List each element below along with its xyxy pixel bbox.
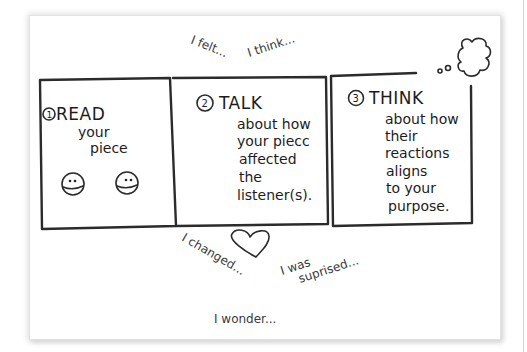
smiley-face-icon <box>62 173 84 195</box>
annotation-i-think: I think... <box>246 31 297 59</box>
step-box-talk: 2 TALK about how your piecc affected the… <box>173 77 328 226</box>
step-number-1: 1 <box>47 110 53 120</box>
step-body-think-line-5: to your <box>386 180 436 196</box>
step-title-read: READ <box>56 104 105 124</box>
step-body-talk-line-5: listener(s). <box>237 187 312 203</box>
step-body-talk-line-4: the <box>239 169 262 185</box>
heart-icon <box>231 230 269 257</box>
sketch-canvas: 1 READ your piece 2 TALK about how your … <box>0 0 527 352</box>
step-body-talk-line-2: your piecc <box>237 133 310 149</box>
step-body-think-line-4: aligns <box>386 163 427 179</box>
step-box-think: 3 THINK about how their reactions aligns… <box>331 73 472 226</box>
step-body-read-line-2: piece <box>90 140 128 156</box>
annotation-i-changed: I changed... <box>180 230 248 277</box>
step-body-think-line-3: reactions <box>385 145 449 161</box>
step-title-think: THINK <box>368 88 424 108</box>
step-title-talk: TALK <box>218 93 263 113</box>
step-body-think-line-2: their <box>385 128 418 144</box>
annotation-i-wonder: I wonder... <box>214 312 276 326</box>
smiley-face-icon <box>116 172 138 194</box>
annotation-i-felt: I felt... <box>189 33 230 60</box>
step-body-talk-line-3: affected <box>239 151 297 167</box>
step-body-talk-line-1: about how <box>237 116 311 132</box>
step-body-think-line-1: about how <box>385 111 459 127</box>
step-body-think-line-6: purpose. <box>388 198 449 214</box>
step-number-3: 3 <box>353 93 359 104</box>
step-number-2: 2 <box>202 98 208 109</box>
step-body-read-line-1: your <box>78 124 110 140</box>
thought-bubble-icon <box>438 39 491 77</box>
step-box-read: 1 READ your piece <box>40 78 176 229</box>
